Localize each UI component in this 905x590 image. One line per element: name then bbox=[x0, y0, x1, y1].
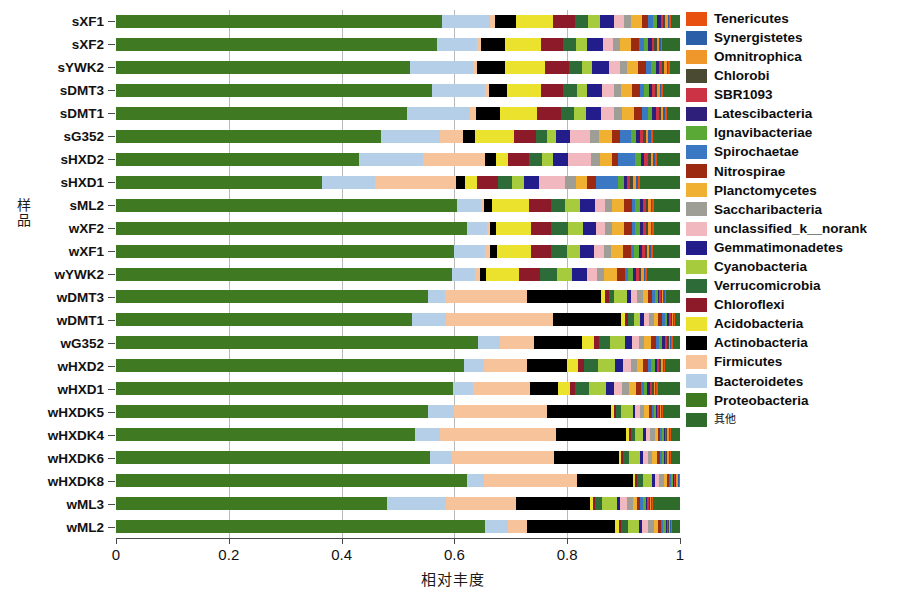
legend-item-label: Cyanobacteria bbox=[714, 260, 807, 274]
legend-item[interactable]: unclassified_k__norank bbox=[686, 219, 901, 238]
x-axis-tick bbox=[567, 538, 568, 544]
legend-item-label: Latescibacteria bbox=[714, 107, 812, 121]
legend-item[interactable]: Bacteroidetes bbox=[686, 372, 901, 391]
legend-item-label: Nitrospirae bbox=[714, 165, 785, 179]
y-axis-tick bbox=[108, 67, 115, 68]
y-axis-tick bbox=[108, 527, 115, 528]
legend-item[interactable]: Synergistetes bbox=[686, 28, 901, 47]
x-axis-tick bbox=[454, 538, 455, 544]
legend-swatch-icon bbox=[686, 31, 707, 45]
y-axis-tick bbox=[108, 343, 115, 344]
y-axis-tick-label: wHXD1 bbox=[0, 381, 104, 396]
x-axis-tick-label: 0.6 bbox=[444, 546, 465, 563]
legend-item-label: Chloroflexi bbox=[714, 298, 785, 312]
legend-item[interactable]: Firmicutes bbox=[686, 353, 901, 372]
legend-item[interactable]: Gemmatimonadetes bbox=[686, 238, 901, 257]
legend-item[interactable]: 其他 bbox=[686, 410, 901, 429]
x-axis-tick bbox=[229, 538, 230, 544]
x-axis-line bbox=[116, 538, 681, 539]
x-axis-tick-label: 0.8 bbox=[557, 546, 578, 563]
y-axis-tick bbox=[108, 228, 115, 229]
legend-item-label: Planctomycetes bbox=[714, 184, 817, 198]
legend-item[interactable]: Planctomycetes bbox=[686, 181, 901, 200]
y-axis-tick-label: wML3 bbox=[0, 496, 104, 511]
legend-item[interactable]: SBR1093 bbox=[686, 85, 901, 104]
legend-item[interactable]: Cyanobacteria bbox=[686, 257, 901, 276]
legend-item[interactable]: Tenericutes bbox=[686, 9, 901, 28]
legend-swatch-icon bbox=[686, 241, 707, 255]
y-axis-tick-label: sHXD1 bbox=[0, 175, 104, 190]
legend-item[interactable]: Omnitrophica bbox=[686, 47, 901, 66]
legend-swatch-icon bbox=[686, 393, 707, 407]
legend-item-label: unclassified_k__norank bbox=[714, 222, 867, 236]
legend-swatch-icon bbox=[686, 145, 707, 159]
y-axis-tick-label: sDMT1 bbox=[0, 106, 104, 121]
legend-item-label: Spirochaetae bbox=[714, 145, 799, 159]
x-axis-tick bbox=[680, 538, 681, 544]
y-axis-tick-label: wYWK2 bbox=[0, 267, 104, 282]
y-axis-tick-label: sYWK2 bbox=[0, 60, 104, 75]
plot-area bbox=[116, 10, 680, 538]
y-axis-tick-label: wXF2 bbox=[0, 221, 104, 236]
legend-item[interactable]: Proteobacteria bbox=[686, 391, 901, 410]
legend-item-label: Tenericutes bbox=[714, 12, 789, 26]
y-axis-tick-label: sG352 bbox=[0, 129, 104, 144]
legend-item-label: Acidobacteria bbox=[714, 317, 803, 331]
legend-item-label: Proteobacteria bbox=[714, 394, 809, 408]
y-axis-tick-label: wML2 bbox=[0, 519, 104, 534]
y-axis-tick-label: wHXDK8 bbox=[0, 473, 104, 488]
y-axis-tick-label: wHXDK5 bbox=[0, 404, 104, 419]
plot-frame bbox=[116, 10, 680, 538]
x-axis-tick-label: 1 bbox=[676, 546, 684, 563]
legend-item[interactable]: Chloroflexi bbox=[686, 295, 901, 314]
y-axis-tick-label: wHXDK6 bbox=[0, 450, 104, 465]
legend-swatch-icon bbox=[686, 126, 707, 140]
legend-swatch-icon bbox=[686, 260, 707, 274]
y-axis-tick-label: sXF1 bbox=[0, 14, 104, 29]
x-axis-tick-label: 0 bbox=[112, 546, 120, 563]
y-axis-tick bbox=[108, 90, 115, 91]
legend-item-label: Firmicutes bbox=[714, 355, 782, 369]
legend-swatch-icon bbox=[686, 69, 707, 83]
legend-item[interactable]: Ignavibacteriae bbox=[686, 124, 901, 143]
legend-swatch-icon bbox=[686, 12, 707, 26]
y-axis-tick-label: sHXD2 bbox=[0, 152, 104, 167]
y-axis-tick bbox=[108, 113, 115, 114]
legend-item-label: Ignavibacteriae bbox=[714, 126, 812, 140]
y-axis-tick bbox=[108, 389, 115, 390]
legend-item-label: Gemmatimonadetes bbox=[714, 241, 843, 255]
legend-swatch-icon bbox=[686, 202, 707, 216]
y-axis-tick bbox=[108, 504, 115, 505]
legend-item-label: Chlorobi bbox=[714, 69, 770, 83]
x-axis-tick bbox=[342, 538, 343, 544]
y-axis-tick-label: wDMT1 bbox=[0, 312, 104, 327]
legend-swatch-icon bbox=[686, 279, 707, 293]
legend-item-label: Omnitrophica bbox=[714, 50, 802, 64]
legend-item[interactable]: Saccharibacteria bbox=[686, 200, 901, 219]
y-axis-tick-label: sML2 bbox=[0, 198, 104, 213]
x-axis-title: 相对丰度 bbox=[0, 568, 905, 589]
legend-item-label: Actinobacteria bbox=[714, 336, 808, 350]
legend-item[interactable]: Acidobacteria bbox=[686, 315, 901, 334]
y-axis-tick bbox=[108, 481, 115, 482]
legend-item[interactable]: Chlorobi bbox=[686, 66, 901, 85]
y-axis-tick-label: wHXDK4 bbox=[0, 427, 104, 442]
legend-swatch-icon bbox=[686, 222, 707, 236]
legend-item[interactable]: Spirochaetae bbox=[686, 143, 901, 162]
y-axis-tick-label: wHXD2 bbox=[0, 358, 104, 373]
legend-item[interactable]: Actinobacteria bbox=[686, 334, 901, 353]
legend-swatch-icon bbox=[686, 413, 707, 427]
legend-item[interactable]: Nitrospirae bbox=[686, 162, 901, 181]
legend-swatch-icon bbox=[686, 50, 707, 64]
legend-item[interactable]: Verrucomicrobia bbox=[686, 276, 901, 295]
y-axis-tick-label: wG352 bbox=[0, 335, 104, 350]
legend-swatch-icon bbox=[686, 374, 707, 388]
legend-item[interactable]: Latescibacteria bbox=[686, 104, 901, 123]
y-axis-tick bbox=[108, 182, 115, 183]
y-axis-tick bbox=[108, 458, 115, 459]
y-axis-tick-label: wXF1 bbox=[0, 244, 104, 259]
legend-swatch-icon bbox=[686, 298, 707, 312]
y-axis-tick bbox=[108, 412, 115, 413]
legend-swatch-icon bbox=[686, 317, 707, 331]
y-axis-tick bbox=[108, 159, 115, 160]
